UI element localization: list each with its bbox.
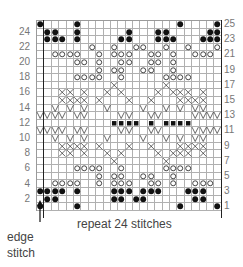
row-number: 19 — [224, 65, 235, 75]
chart-cell-open-circle — [192, 180, 199, 188]
row-number: 5 — [224, 171, 230, 181]
chart-cell-cross — [96, 143, 103, 151]
chart-cell-v-shape — [118, 127, 125, 135]
chart-cell-v-shape — [200, 112, 207, 120]
chart-cell-knit-empty — [177, 44, 184, 52]
chart-cell-knit-empty — [163, 51, 170, 59]
chart-cell-knit-empty — [133, 173, 140, 181]
chart-cell-knit-empty — [126, 21, 133, 29]
chart-cell-knit-empty — [118, 105, 125, 113]
chart-cell-filled-dot — [59, 188, 66, 196]
chart-cell-cross — [155, 150, 162, 158]
chart-cell-knit-empty — [81, 196, 88, 204]
chart-cell-knit-empty — [207, 105, 214, 113]
chart-cell-knit-empty — [133, 158, 140, 166]
chart-cell-knit-empty — [89, 89, 96, 97]
chart-cell-knit-empty — [111, 21, 118, 29]
chart-cell-open-circle — [126, 180, 133, 188]
chart-cell-cross — [74, 97, 81, 105]
chart-cell-knit-empty — [89, 29, 96, 37]
chart-cell-knit-empty — [177, 51, 184, 59]
chart-cell-knit-empty — [96, 82, 103, 90]
edge-stitch-label: edge stitch — [7, 229, 35, 261]
chart-cell-knit-empty — [126, 173, 133, 181]
chart-cell-knit-empty — [140, 150, 147, 158]
chart-cell-knit-empty — [140, 180, 147, 188]
chart-cell-knit-empty — [52, 74, 59, 82]
chart-cell-knit-empty — [155, 203, 162, 211]
chart-cell-knit-empty — [59, 21, 66, 29]
chart-cell-knit-empty — [177, 173, 184, 181]
chart-cell-knit-empty — [52, 143, 59, 151]
chart-cell-knit-empty — [81, 44, 88, 52]
chart-cell-knit-empty — [163, 173, 170, 181]
chart-cell-knit-empty — [148, 165, 155, 173]
chart-cell-filled-dot — [44, 29, 51, 37]
chart-cell-knit-empty — [67, 59, 74, 67]
row-number: 4 — [14, 179, 30, 189]
chart-cell-knit-empty — [89, 150, 96, 158]
chart-cell-knit-empty — [207, 203, 214, 211]
chart-cell-knit-empty — [96, 89, 103, 97]
chart-cell-knit-empty — [67, 36, 74, 44]
chart-cell-cross — [185, 97, 192, 105]
chart-cell-knit-empty — [81, 29, 88, 37]
chart-cell-knit-empty — [133, 51, 140, 59]
chart-cell-filled-dot — [192, 196, 199, 204]
chart-cell-open-circle — [140, 173, 147, 181]
chart-cell-filled-dot — [118, 36, 125, 44]
chart-cell-knit-empty — [59, 67, 66, 75]
chart-cell-knit-empty — [148, 196, 155, 204]
chart-cell-knit-empty — [67, 74, 74, 82]
chart-cell-cross — [96, 97, 103, 105]
chart-cell-open-circle — [111, 67, 118, 75]
chart-cell-knit-empty — [67, 188, 74, 196]
edge-label-line2: stitch — [7, 245, 35, 261]
chart-cell-cross — [177, 97, 184, 105]
chart-cell-knit-empty — [44, 135, 51, 143]
chart-cell-knit-empty — [118, 203, 125, 211]
chart-cell-cross — [104, 89, 111, 97]
chart-cell-knit-empty — [89, 188, 96, 196]
chart-cell-knit-empty — [44, 203, 51, 211]
chart-cell-knit-empty — [148, 74, 155, 82]
chart-cell-knit-empty — [148, 82, 155, 90]
chart-cell-knit-empty — [200, 158, 207, 166]
chart-cell-knit-empty — [81, 36, 88, 44]
chart-cell-v-shape — [52, 105, 59, 113]
chart-cell-filled-dot — [148, 188, 155, 196]
chart-cell-knit-empty — [170, 97, 177, 105]
chart-cell-knit-empty — [111, 59, 118, 67]
chart-cell-knit-empty — [44, 51, 51, 59]
chart-cell-knit-empty — [111, 135, 118, 143]
chart-cell-knit-empty — [81, 158, 88, 166]
row-number: 1 — [224, 201, 230, 211]
chart-cell-filled-dot — [170, 36, 177, 44]
chart-cell-knit-empty — [177, 36, 184, 44]
chart-cell-v-shape — [155, 127, 162, 135]
chart-cell-knit-empty — [89, 127, 96, 135]
chart-cell-knit-empty — [81, 120, 88, 128]
chart-cell-cross — [155, 89, 162, 97]
chart-cell-open-circle — [52, 51, 59, 59]
chart-cell-cross — [59, 143, 66, 151]
chart-cell-open-circle — [81, 59, 88, 67]
chart-cell-open-circle — [74, 59, 81, 67]
chart-cell-knit-empty — [140, 120, 147, 128]
chart-cell-knit-empty — [118, 143, 125, 151]
chart-cell-open-circle — [111, 173, 118, 181]
chart-cell-v-shape — [207, 127, 214, 135]
chart-grid — [36, 20, 222, 211]
chart-cell-knit-empty — [207, 188, 214, 196]
chart-cell-open-circle — [118, 51, 125, 59]
chart-cell-knit-empty — [52, 120, 59, 128]
chart-cell-knit-empty — [44, 89, 51, 97]
chart-cell-knit-empty — [148, 21, 155, 29]
chart-cell-knit-empty — [170, 44, 177, 52]
chart-cell-knit-empty — [111, 112, 118, 120]
row-number: 9 — [224, 141, 230, 151]
chart-cell-cross — [200, 97, 207, 105]
chart-cell-cross — [104, 150, 111, 158]
row-number: 10 — [14, 133, 30, 143]
chart-cell-knit-empty — [96, 203, 103, 211]
